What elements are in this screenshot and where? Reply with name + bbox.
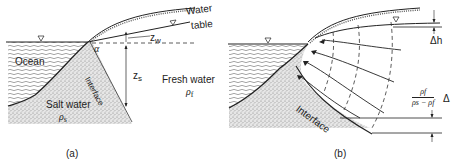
rho-s-label: ρs [59, 112, 67, 124]
delta-h-label: Δh [430, 36, 442, 46]
sea-level-marker-icon [38, 36, 44, 41]
ocean-label: Ocean [15, 57, 44, 67]
sea-level-marker-icon [265, 38, 271, 43]
water-table-marker-icon [393, 17, 399, 22]
zw-subscript: w [155, 36, 161, 45]
zs-label: zs [133, 71, 142, 83]
caption-a: (a) [66, 149, 78, 159]
rho-f-subscript: f [191, 90, 194, 99]
caption-b: (b) [334, 149, 346, 159]
zs-subscript: s [138, 74, 142, 83]
fraction-denominator: ρs − ρf [412, 98, 434, 107]
panel-b [228, 8, 442, 142]
alpha-angle-label: α [94, 44, 99, 54]
diagram-canvas [0, 0, 454, 166]
delta-label: Δ [443, 94, 450, 104]
salt-water-label: Salt water [46, 100, 90, 110]
zw-label: zw [150, 33, 161, 45]
density-ratio-fraction: ρf ρs − ρf [412, 88, 434, 107]
fraction-numerator: ρf [412, 88, 434, 98]
rho-s-subscript: s [64, 115, 67, 124]
fresh-water-label: Fresh water [162, 75, 215, 85]
rho-f-label: ρf [186, 87, 193, 99]
water-table-marker-icon [170, 20, 176, 25]
